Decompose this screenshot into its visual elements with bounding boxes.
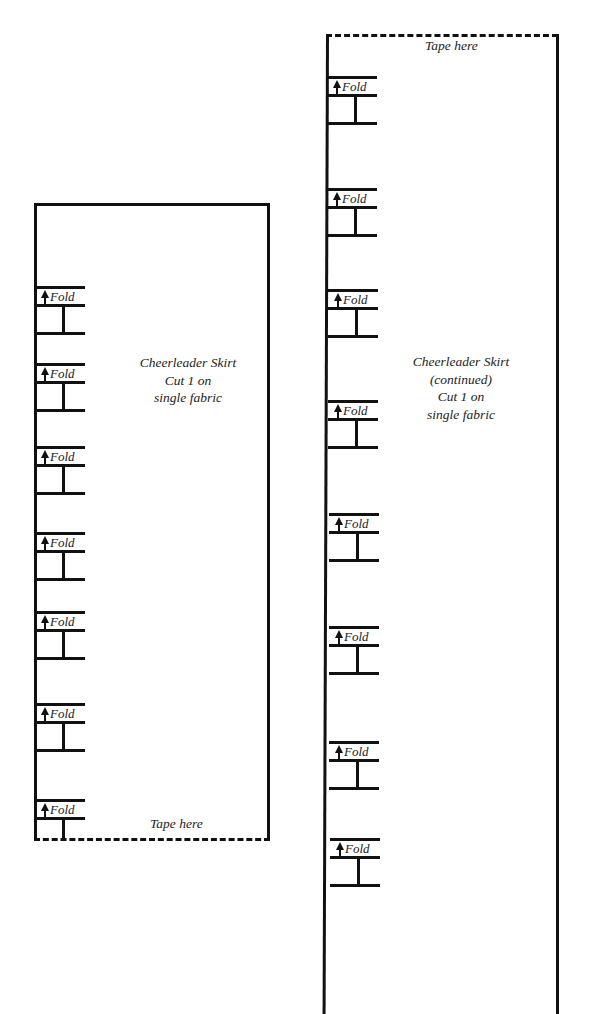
arrow-up-head-icon [335, 630, 343, 638]
arrow-up-head-icon [41, 536, 49, 544]
fold-label: Fold [50, 803, 75, 816]
arrow-up-head-icon [41, 450, 49, 458]
arrow-up-head-icon [334, 404, 342, 412]
fold-marker-vertical [354, 206, 357, 235]
fold-marker-bottom-line [330, 884, 380, 887]
fold-marker-mid-line [35, 629, 85, 632]
caption-line: Cheerleader Skirt [381, 353, 541, 371]
fold-label: Fold [344, 517, 369, 530]
fold-marker-vertical [357, 856, 360, 885]
left-piece-caption: Cheerleader Skirt Cut 1 on single fabric [108, 354, 268, 407]
fold-marker: Fold [35, 532, 85, 580]
fold-marker-bottom-line [35, 578, 85, 581]
caption-line: single fabric [381, 406, 541, 424]
right-pattern-piece: Tape here Cheerleader Skirt (continued) … [300, 0, 590, 1007]
fold-marker-vertical [62, 550, 65, 579]
arrow-up-head-icon [336, 842, 344, 850]
fold-marker-bottom-line [327, 234, 377, 237]
fold-marker-mid-line [35, 817, 85, 820]
fold-marker: Fold [328, 289, 378, 337]
fold-marker: Fold [35, 286, 85, 334]
fold-label: Fold [50, 707, 75, 720]
fold-label: Fold [345, 842, 370, 855]
fold-marker-mid-line [35, 381, 85, 384]
fold-marker-vertical [356, 759, 359, 788]
fold-marker-mid-line [35, 550, 85, 553]
fold-marker-bottom-line [328, 446, 378, 449]
fold-marker-bottom-line [35, 332, 85, 335]
arrow-up-head-icon [335, 517, 343, 525]
caption-line: Cheerleader Skirt [108, 354, 268, 372]
fold-marker-bottom-line [329, 672, 379, 675]
arrow-up-head-icon [334, 293, 342, 301]
right-piece-right-edge [556, 34, 559, 1014]
fold-marker: Fold [35, 446, 85, 494]
fold-marker: Fold [35, 703, 85, 751]
fold-marker: Fold [327, 188, 377, 236]
fold-marker: Fold [35, 363, 85, 411]
fold-marker-mid-line [327, 206, 377, 209]
left-tape-here-label: Tape here [150, 816, 203, 832]
fold-marker-vertical [355, 418, 358, 447]
fold-marker-mid-line [35, 464, 85, 467]
arrow-up-head-icon [41, 290, 49, 298]
caption-line: (continued) [381, 371, 541, 389]
fold-marker-vertical [62, 721, 65, 750]
fold-marker-bottom-line [35, 492, 85, 495]
fold-marker-mid-line [328, 418, 378, 421]
caption-line: Cut 1 on [381, 388, 541, 406]
caption-line: single fabric [108, 389, 268, 407]
fold-marker-bottom-line [35, 657, 85, 660]
fold-marker: Fold [329, 741, 379, 789]
fold-marker-bottom-line [329, 559, 379, 562]
fold-label: Fold [50, 367, 75, 380]
fold-marker-bottom-line [327, 122, 377, 125]
fold-marker-vertical [354, 94, 357, 123]
left-piece-right-edge [267, 203, 270, 841]
fold-marker-mid-line [327, 94, 377, 97]
fold-marker-mid-line [329, 531, 379, 534]
fold-marker-mid-line [329, 759, 379, 762]
left-pattern-piece: Cheerleader Skirt Cut 1 on single fabric… [0, 0, 300, 860]
fold-label: Fold [344, 745, 369, 758]
fold-marker-vertical [356, 531, 359, 560]
fold-marker-vertical [62, 629, 65, 658]
fold-marker-mid-line [330, 856, 380, 859]
fold-marker-mid-line [35, 721, 85, 724]
fold-marker: Fold [329, 513, 379, 561]
right-piece-tape-edge [326, 34, 558, 37]
fold-marker-vertical [62, 304, 65, 333]
fold-label: Fold [50, 615, 75, 628]
fold-label: Fold [342, 80, 367, 93]
fold-marker-vertical [62, 464, 65, 493]
fold-label: Fold [50, 290, 75, 303]
fold-marker: Fold [35, 799, 85, 847]
arrow-up-head-icon [333, 80, 341, 88]
arrow-up-head-icon [333, 192, 341, 200]
caption-line: Cut 1 on [108, 372, 268, 390]
left-piece-top-edge [34, 203, 270, 206]
arrow-up-head-icon [41, 615, 49, 623]
fold-marker: Fold [35, 611, 85, 659]
fold-marker-vertical [355, 307, 358, 336]
fold-marker: Fold [329, 626, 379, 674]
fold-label: Fold [344, 630, 369, 643]
fold-marker-bottom-line [35, 749, 85, 752]
fold-marker-bottom-line [35, 409, 85, 412]
fold-label: Fold [50, 536, 75, 549]
fold-marker-mid-line [328, 307, 378, 310]
fold-marker-mid-line [35, 304, 85, 307]
fold-marker-vertical [62, 817, 65, 838]
arrow-up-head-icon [41, 367, 49, 375]
fold-marker-mid-line [329, 644, 379, 647]
fold-marker-bottom-line [328, 335, 378, 338]
right-tape-here-label: Tape here [425, 38, 478, 54]
arrow-up-head-icon [335, 745, 343, 753]
fold-marker: Fold [328, 400, 378, 448]
fold-marker: Fold [330, 838, 380, 886]
fold-label: Fold [343, 293, 368, 306]
fold-marker: Fold [327, 76, 377, 124]
right-piece-caption: Cheerleader Skirt (continued) Cut 1 on s… [381, 353, 541, 423]
arrow-up-head-icon [41, 803, 49, 811]
fold-marker-bottom-line [329, 787, 379, 790]
